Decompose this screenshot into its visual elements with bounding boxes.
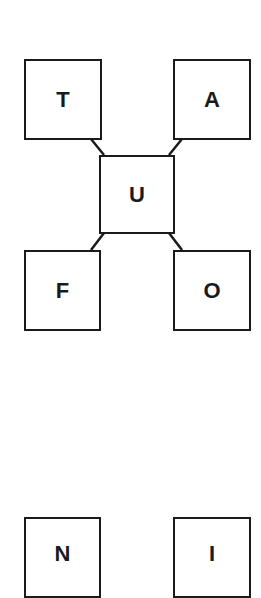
node-f: F — [24, 250, 101, 331]
node-o: O — [173, 250, 251, 331]
node-i: I — [173, 517, 251, 598]
node-n: N — [24, 517, 101, 598]
node-o-label: O — [203, 280, 220, 302]
node-t: T — [24, 59, 102, 140]
edge-t-u — [91, 139, 104, 155]
node-a: A — [173, 59, 251, 140]
node-f-label: F — [56, 280, 69, 302]
node-t-label: T — [56, 89, 69, 111]
node-n-label: N — [55, 543, 71, 565]
edge-u-f — [91, 233, 104, 250]
edge-a-u — [169, 139, 182, 155]
edge-u-o — [169, 233, 182, 250]
node-i-label: I — [209, 543, 215, 565]
node-a-label: A — [204, 89, 220, 111]
node-u: U — [99, 155, 175, 234]
node-u-label: U — [129, 184, 145, 206]
